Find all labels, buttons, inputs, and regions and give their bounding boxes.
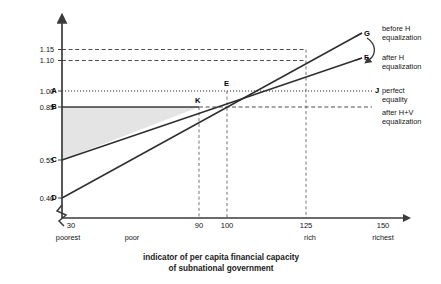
point-label-c: C: [49, 155, 59, 164]
x-tick-label-100: 100: [214, 221, 240, 230]
point-label-k: K: [195, 96, 200, 105]
x-axis-title-line-2: of subnational government: [86, 264, 356, 275]
x-category-poor: poor: [112, 233, 152, 242]
x-tick-label-90: 90: [186, 221, 212, 230]
legend-perfect-equality-line-1: perfect: [382, 86, 407, 95]
legend-after-hv-line-1: after H+V: [382, 108, 421, 117]
x-category-richest: richest: [363, 233, 403, 242]
x-tick-label-30: 30: [58, 221, 84, 230]
point-label-e: E: [224, 79, 229, 88]
legend-after-hv-equalization: after H+V equalization: [382, 108, 421, 127]
legend-after-h-line-1: after H: [382, 53, 421, 62]
x-tick-label-125: 125: [293, 221, 319, 230]
legend-perfect-equality: perfect equality: [382, 86, 407, 105]
point-label-f: F: [364, 53, 369, 62]
legend-perfect-equality-line-2: equality: [382, 95, 407, 104]
g-label-tick: [355, 33, 362, 37]
point-label-b: B: [49, 102, 59, 111]
y-tick-label-110: 1.10: [28, 56, 54, 65]
y-tick-label-115: 1.15: [28, 45, 54, 54]
legend-after-h-line-2: equalization: [382, 62, 421, 71]
point-label-a: A: [49, 86, 59, 95]
f-label-tick: [355, 58, 362, 60]
legend-after-h-equalization: after H equalization: [382, 53, 421, 72]
legend-before-h-line-1: before H: [382, 24, 421, 33]
legend-before-h-line-2: equalization: [382, 33, 421, 42]
x-category-poorest: poorest: [48, 233, 88, 242]
point-label-g: G: [364, 29, 370, 38]
chart-container: index of per capita public revenue of su…: [0, 0, 441, 284]
x-axis-title: indicator of per capita financial capaci…: [86, 253, 356, 274]
x-category-rich: rich: [290, 233, 330, 242]
point-label-d: D: [49, 193, 59, 202]
legend-after-hv-line-2: equalization: [382, 117, 421, 126]
x-tick-label-150: 150: [370, 221, 396, 230]
point-label-j: J: [375, 86, 379, 95]
legend-before-h-equalization: before H equalization: [382, 24, 421, 43]
x-axis-title-line-1: indicator of per capita financial capaci…: [86, 253, 356, 264]
